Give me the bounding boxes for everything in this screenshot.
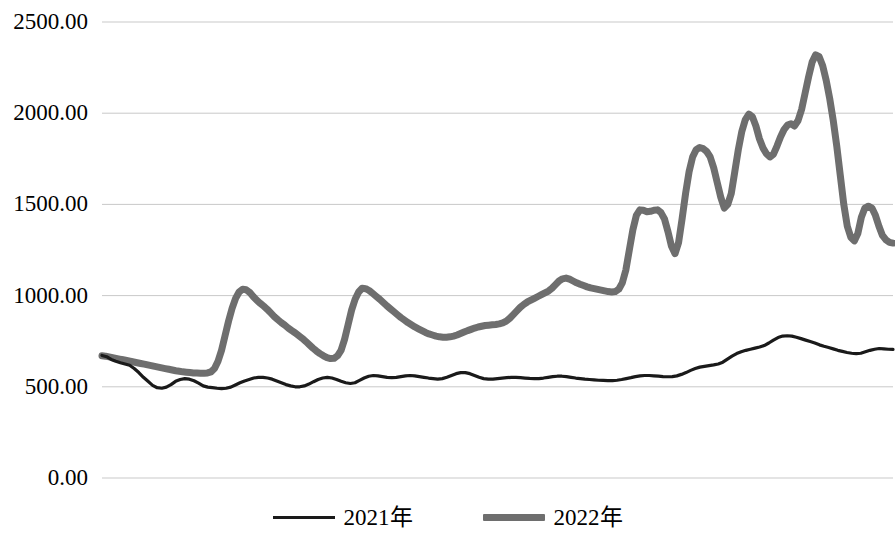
gridlines [102,22,893,478]
chart-plot-area [0,0,895,533]
series-line-2022 [102,55,893,373]
line-chart: 2500.002000.001500.001000.00500.000.00 2… [0,0,895,533]
legend-item-2022: 2022年 [483,506,623,529]
legend-item-2021: 2021年 [273,506,413,529]
legend-swatch-2021-icon [273,516,335,519]
legend-label-2021: 2021年 [344,506,413,529]
chart-legend: 2021年 2022年 [0,506,895,529]
legend-label-2022: 2022年 [554,506,623,529]
legend-swatch-2022-icon [483,514,545,521]
